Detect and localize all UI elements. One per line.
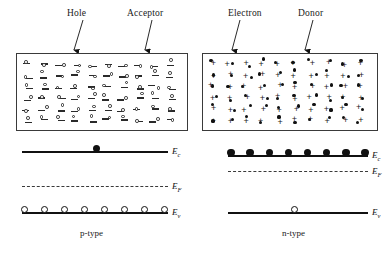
- electron-dot-icon: [250, 76, 253, 79]
- electron-dot-icon: [211, 119, 214, 122]
- hole-circle-icon: [121, 108, 125, 112]
- donor-plus-icon: +: [243, 118, 250, 125]
- hole-circle-icon: [43, 83, 47, 87]
- donor-plus-icon: +: [210, 105, 217, 112]
- donor-plus-icon: +: [259, 95, 266, 102]
- electron-dot-icon: [357, 83, 360, 86]
- hole-circle-icon: [151, 91, 155, 95]
- electron-dot-icon: [359, 59, 362, 62]
- hole-circle-icon: [78, 64, 82, 68]
- n-type-caption: n-type: [282, 228, 305, 238]
- hole-circle-icon: [40, 95, 44, 99]
- electron-dot-icon: [211, 103, 214, 106]
- electron-dot-icon: [325, 69, 328, 72]
- acceptor-minus-icon: [152, 108, 159, 109]
- acceptor-minus-icon: [89, 110, 96, 111]
- donor-plus-icon: +: [308, 73, 315, 80]
- p-type-caption: p-type: [80, 228, 103, 238]
- n-type-Ev-label: Ev: [372, 207, 380, 219]
- hole-circle-icon: [107, 64, 111, 68]
- donor-plus-icon: +: [323, 73, 330, 80]
- acceptor-minus-icon: [40, 77, 47, 78]
- hole-circle-icon: [92, 105, 96, 109]
- acceptor-minus-icon: [166, 77, 173, 78]
- electron-dot-icon: [291, 61, 294, 64]
- hole-circle-icon: [135, 75, 139, 79]
- acceptor-minus-icon: [137, 97, 144, 98]
- hole-circle-icon: [40, 70, 44, 74]
- acceptor-minus-icon: [121, 119, 128, 120]
- electron-dot-icon: [277, 115, 280, 118]
- donor-plus-icon: +: [242, 73, 249, 80]
- hole-circle-icon: [110, 72, 114, 76]
- n-type-Ec-label: Ec: [372, 150, 380, 162]
- hole-circle-icon: [157, 86, 161, 90]
- electron-dot-icon: [341, 96, 344, 99]
- electron-dot-icon: [361, 97, 364, 100]
- hole-circle-icon: [90, 114, 94, 118]
- electron-dot-icon: [212, 73, 215, 76]
- acceptor-minus-icon: [102, 99, 109, 100]
- electron-dot-icon: [339, 84, 342, 87]
- electron-dot-icon: [344, 103, 347, 106]
- p-type-EF-line: [22, 186, 168, 187]
- hole-circle-icon: [93, 92, 97, 96]
- hole-circle-icon: [138, 85, 142, 89]
- electron-dot-icon: [266, 97, 269, 100]
- electron-dot-icon: [226, 85, 229, 88]
- figure-canvas: Hole Acceptor Electron Donor +++++++++++…: [0, 0, 392, 254]
- electron-dot-icon: [293, 121, 296, 124]
- donor-plus-icon: +: [291, 84, 298, 91]
- electron-dot-icon: [329, 99, 332, 102]
- electron-dot-icon: [209, 59, 212, 62]
- electron-dot-icon: [315, 73, 318, 76]
- acceptor-minus-icon: [105, 110, 112, 111]
- donor-plus-icon: +: [342, 83, 349, 90]
- n-type-EF-line: [228, 171, 368, 172]
- electron-dot-icon: [293, 68, 296, 71]
- acceptor-minus-icon: [26, 88, 33, 89]
- donor-plus-icon: +: [324, 118, 331, 125]
- donor-plus-icon: +: [323, 84, 330, 91]
- p-type-crystal-box: [16, 53, 188, 131]
- acceptor-minus-icon: [71, 111, 78, 112]
- hole-circle-icon: [24, 75, 28, 79]
- hole-circle-icon: [93, 75, 97, 79]
- hole-circle-icon: [61, 103, 65, 107]
- electron-dot-icon: [259, 121, 262, 124]
- electron-dot-icon: [347, 75, 350, 78]
- hole-circle-icon: [24, 109, 28, 113]
- donor-plus-icon: +: [258, 61, 265, 68]
- hole-circle-icon: [29, 95, 33, 99]
- arrow-hole: [74, 20, 83, 50]
- acceptor-minus-icon: [152, 75, 159, 76]
- hole-circle-icon: [61, 75, 65, 79]
- hole-circle-icon: [77, 107, 81, 111]
- hole-circle-icon: [125, 74, 129, 78]
- acceptor-minus-icon: [41, 119, 48, 120]
- n-type-crystal-box: ++++++++++++++++++++++++++++++++++++++++…: [202, 53, 378, 131]
- electron-dot-icon: [262, 57, 265, 60]
- electron-dot-icon: [231, 118, 234, 121]
- hole-circle-icon: [139, 64, 143, 68]
- acceptor-minus-icon: [24, 100, 31, 101]
- arrow-acceptor: [145, 20, 152, 50]
- hole-circle-icon: [135, 107, 139, 111]
- hole-circle-icon: [45, 105, 49, 109]
- hole-circle-icon: [150, 65, 154, 69]
- electron-dot-icon: [315, 93, 318, 96]
- acceptor-minus-icon: [121, 87, 128, 88]
- hole-circle-icon: [125, 81, 129, 85]
- hole-circle-icon: [62, 63, 66, 67]
- hole-circle-icon: [91, 87, 95, 91]
- hole-circle-icon: [140, 92, 144, 96]
- electron-dot-icon: [328, 116, 331, 119]
- electron-dot-icon: [279, 71, 282, 74]
- hole-circle-icon: [168, 71, 172, 75]
- hole-circle-icon: [151, 105, 155, 109]
- acceptor-minus-icon: [42, 88, 49, 89]
- electron-dot-icon: [342, 116, 345, 119]
- hole-circle-icon: [26, 116, 30, 120]
- hole-circle-icon: [153, 69, 157, 73]
- acceptor-minus-icon: [88, 98, 95, 99]
